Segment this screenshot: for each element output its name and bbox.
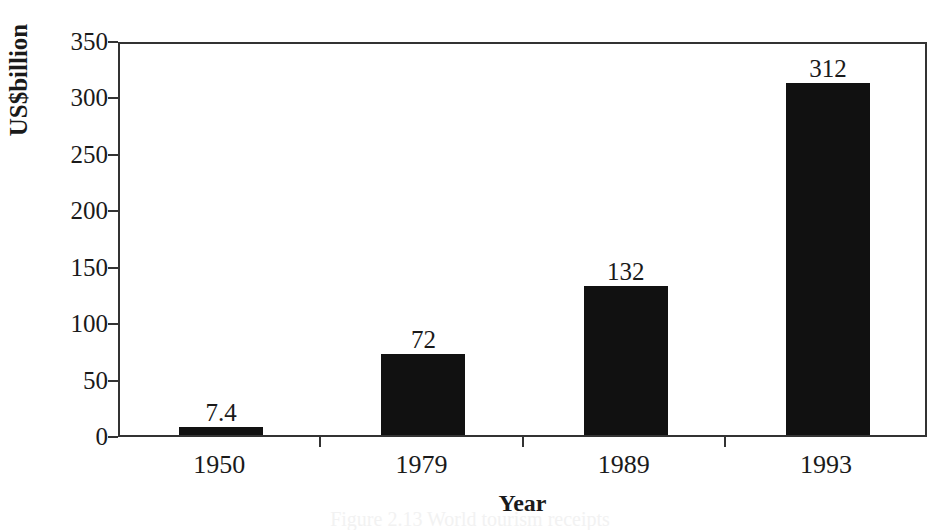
y-tick-mark xyxy=(108,323,118,325)
figure-caption: Figure 2.13 World tourism receipts xyxy=(160,508,780,530)
bar[interactable] xyxy=(786,83,870,435)
x-tick-label: 1989 xyxy=(544,450,704,480)
y-tick-mark xyxy=(108,436,118,438)
y-tick-label: 50 xyxy=(36,368,108,393)
y-tick-mark xyxy=(108,41,118,43)
y-axis-tick-labels: 050100150200250300350 xyxy=(28,42,108,437)
bar[interactable] xyxy=(179,427,263,435)
x-tick-label: 1993 xyxy=(746,450,906,480)
bar-value-label: 72 xyxy=(353,326,493,354)
y-tick-label: 350 xyxy=(36,29,108,54)
y-tick-label: 100 xyxy=(36,311,108,336)
x-tick-mark xyxy=(724,437,726,447)
x-tick-mark xyxy=(522,437,524,447)
x-tick-label: 1950 xyxy=(139,450,299,480)
x-axis-ticks xyxy=(118,437,927,449)
y-tick-label: 150 xyxy=(36,255,108,280)
y-tick-mark xyxy=(108,97,118,99)
y-tick-mark xyxy=(108,154,118,156)
y-tick-mark xyxy=(108,210,118,212)
bar[interactable] xyxy=(381,354,465,435)
bar-value-label: 132 xyxy=(556,258,696,286)
bar[interactable] xyxy=(584,286,668,435)
bar-value-label: 7.4 xyxy=(151,399,291,427)
x-tick-label: 1979 xyxy=(341,450,501,480)
y-tick-label: 250 xyxy=(36,142,108,167)
x-tick-mark xyxy=(319,437,321,447)
bar-value-label: 312 xyxy=(758,55,898,83)
y-tick-label: 0 xyxy=(36,424,108,449)
y-tick-label: 200 xyxy=(36,198,108,223)
y-tick-mark xyxy=(108,380,118,382)
x-axis-tick-labels: 1950197919891993 xyxy=(118,450,927,484)
plot-area: 7.472132312 xyxy=(118,42,927,437)
y-tick-mark xyxy=(108,267,118,269)
y-tick-label: 300 xyxy=(36,85,108,110)
